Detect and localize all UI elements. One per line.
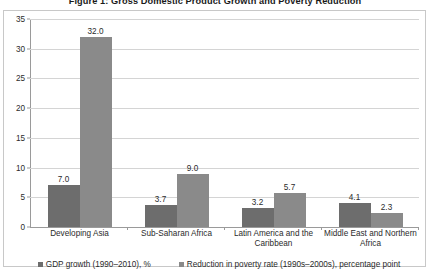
bar-group: 3.79.0 <box>128 19 225 227</box>
bar[interactable]: 7.0 <box>48 185 80 227</box>
bar-pair: 3.25.7 <box>242 193 306 227</box>
figure-title: Figure 1: Gross Domestic Product Growth … <box>0 0 430 6</box>
bar[interactable]: 5.7 <box>274 193 306 227</box>
y-axis-tick-mark <box>27 197 30 198</box>
y-axis-tick-mark <box>27 78 30 79</box>
legend-item[interactable]: GDP growth (1990–2010), % <box>38 260 151 269</box>
bar-value-label: 7.0 <box>58 175 69 184</box>
bar-value-label: 9.0 <box>187 164 198 173</box>
bar-value-label: 4.1 <box>349 193 360 202</box>
bar-pair: 3.79.0 <box>145 174 209 227</box>
bar[interactable]: 3.2 <box>242 208 274 227</box>
y-axis-tick-label: 30 <box>16 44 25 53</box>
y-axis-tick-mark <box>27 48 30 49</box>
y-axis-tick-mark <box>27 227 30 228</box>
x-axis-category-label: Sub-Saharan Africa <box>128 229 225 249</box>
bar-value-label: 2.3 <box>381 203 392 212</box>
bar-group: 4.12.3 <box>322 19 419 227</box>
chart-legend: GDP growth (1990–2010), %Reduction in po… <box>4 260 430 269</box>
y-axis-tick-label: 10 <box>16 163 25 172</box>
bar[interactable]: 9.0 <box>177 174 209 227</box>
y-axis-tick-label: 25 <box>16 74 25 83</box>
legend-swatch-icon <box>38 262 43 267</box>
plot-area: 35302520151050 7.032.03.79.03.25.74.12.3 <box>30 19 419 227</box>
y-axis-tick-label: 0 <box>20 223 25 232</box>
legend-item[interactable]: Reduction in poverty rate (1990s–2000s),… <box>179 260 400 269</box>
bar-value-label: 32.0 <box>88 27 104 36</box>
y-axis-tick-mark <box>27 137 30 138</box>
bar[interactable]: 4.1 <box>339 203 371 227</box>
x-axis-category-label: Middle East and Northern Africa <box>322 229 419 249</box>
y-axis-tick-label: 20 <box>16 104 25 113</box>
figure-container: Figure 1: Gross Domestic Product Growth … <box>0 0 430 271</box>
bar-value-label: 5.7 <box>284 183 295 192</box>
y-axis-tick-mark <box>27 19 30 20</box>
x-axis-category-labels: Developing AsiaSub-Saharan AfricaLatin A… <box>31 229 419 249</box>
bar-pair: 7.032.0 <box>48 37 112 227</box>
y-axis-tick-label: 35 <box>16 15 25 24</box>
y-axis-tick-mark <box>27 167 30 168</box>
bar-group: 7.032.0 <box>31 19 128 227</box>
legend-label: Reduction in poverty rate (1990s–2000s),… <box>187 260 400 269</box>
bar-pair: 4.12.3 <box>339 203 403 227</box>
legend-swatch-icon <box>179 262 184 267</box>
bar[interactable]: 3.7 <box>145 205 177 227</box>
bar-group: 3.25.7 <box>225 19 322 227</box>
bar[interactable]: 2.3 <box>371 213 403 227</box>
legend-label: GDP growth (1990–2010), % <box>46 260 151 269</box>
bar[interactable]: 32.0 <box>80 37 112 227</box>
x-axis-category-label: Latin America and the Caribbean <box>225 229 322 249</box>
bar-groups: 7.032.03.79.03.25.74.12.3 <box>31 19 419 227</box>
y-axis-tick-label: 15 <box>16 133 25 142</box>
chart-frame: 35302520151050 7.032.03.79.03.25.74.12.3… <box>3 10 426 267</box>
x-axis-category-label: Developing Asia <box>31 229 128 249</box>
bar-value-label: 3.2 <box>252 198 263 207</box>
y-axis-tick-label: 5 <box>20 193 25 202</box>
bar-value-label: 3.7 <box>155 195 166 204</box>
y-axis-tick-mark <box>27 108 30 109</box>
